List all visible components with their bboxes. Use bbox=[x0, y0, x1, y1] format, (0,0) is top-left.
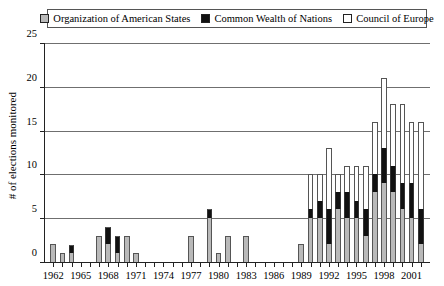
bar-segment-cwn-1968 bbox=[105, 227, 111, 245]
bar-segment-oas-1993 bbox=[335, 209, 341, 262]
bar-1964 bbox=[69, 244, 75, 262]
x-tick-2002 bbox=[421, 262, 422, 267]
x-tick-1969 bbox=[118, 262, 119, 267]
y-tick-label-0: 0 bbox=[32, 248, 37, 258]
x-tick-1994 bbox=[347, 262, 348, 267]
x-tick-1972 bbox=[145, 262, 146, 267]
bar-segment-coe-1992 bbox=[326, 148, 332, 209]
x-tick-1986 bbox=[274, 262, 275, 267]
bar-segment-cwn-1995 bbox=[354, 201, 360, 219]
bar-segment-oas-2000 bbox=[400, 209, 406, 262]
bar-segment-oas-1995 bbox=[354, 218, 360, 262]
x-tick-1975 bbox=[173, 262, 174, 267]
x-tick-1987 bbox=[283, 262, 284, 267]
x-tick-2001 bbox=[412, 262, 413, 267]
legend-item-coe: Council of Europe bbox=[343, 13, 434, 24]
y-tick-25 bbox=[40, 43, 45, 44]
bar-segment-coe-1993 bbox=[335, 174, 341, 192]
bar-segment-oas-2001 bbox=[409, 218, 415, 262]
bar-segment-coe-1994 bbox=[344, 166, 350, 192]
x-tick-1973 bbox=[154, 262, 155, 267]
y-axis-title: # of elections monitored bbox=[6, 92, 18, 199]
bar-1994 bbox=[344, 166, 350, 262]
bar-segment-cwn-1998 bbox=[381, 148, 387, 183]
x-tick-label-1971: 1971 bbox=[125, 270, 146, 281]
gridline-25 bbox=[44, 43, 430, 44]
x-tick-1966 bbox=[90, 262, 91, 267]
bar-segment-cwn-1997 bbox=[372, 174, 378, 192]
x-tick-2000 bbox=[402, 262, 403, 267]
legend-label-coe: Council of Europe bbox=[356, 13, 434, 24]
x-tick-1984 bbox=[255, 262, 256, 267]
bar-1977 bbox=[188, 236, 194, 262]
y-tick-0 bbox=[40, 262, 45, 263]
chart-container: Organization of American States Common W… bbox=[0, 0, 444, 286]
bar-segment-coe-1996 bbox=[363, 166, 369, 210]
bar-segment-coe-1995 bbox=[354, 166, 360, 201]
bar-segment-cwn-1969 bbox=[115, 236, 121, 254]
x-tick-1964 bbox=[72, 262, 73, 267]
bar-segment-cwn-1996 bbox=[363, 209, 369, 235]
x-tick-1989 bbox=[301, 262, 302, 267]
plot-area: 0510152025 19621965196819711974197719801… bbox=[44, 43, 430, 263]
x-tick-label-1992: 1992 bbox=[318, 270, 339, 281]
bar-segment-oas-1997 bbox=[372, 192, 378, 262]
x-tick-1978 bbox=[200, 262, 201, 267]
bar-segment-oas-1969 bbox=[115, 253, 121, 262]
x-tick-label-1965: 1965 bbox=[70, 270, 91, 281]
bar-segment-coe-1998 bbox=[381, 78, 387, 148]
y-tick-label-5: 5 bbox=[32, 204, 37, 214]
bar-segment-oas-1977 bbox=[188, 236, 194, 262]
bar-segment-coe-1991 bbox=[317, 174, 323, 200]
bar-segment-coe-2001 bbox=[409, 122, 415, 183]
y-axis-line bbox=[44, 43, 45, 263]
bar-1989 bbox=[298, 244, 304, 262]
bar-segment-oas-1983 bbox=[243, 236, 249, 262]
x-tick-1995 bbox=[356, 262, 357, 267]
x-tick-1971 bbox=[136, 262, 137, 267]
bar-segment-oas-1994 bbox=[344, 218, 350, 262]
bar-segment-cwn-1964 bbox=[69, 245, 75, 254]
x-tick-1999 bbox=[393, 262, 394, 267]
x-tick-1998 bbox=[384, 262, 385, 267]
bar-1967 bbox=[96, 236, 102, 262]
x-tick-1988 bbox=[292, 262, 293, 267]
bar-1971 bbox=[133, 253, 139, 262]
x-tick-label-1962: 1962 bbox=[43, 270, 64, 281]
x-tick-1983 bbox=[246, 262, 247, 267]
bar-segment-oas-1996 bbox=[363, 236, 369, 262]
bar-segment-cwn-1979 bbox=[207, 209, 213, 218]
x-tick-1962 bbox=[53, 262, 54, 267]
x-tick-label-1977: 1977 bbox=[181, 270, 202, 281]
bar-segment-coe-1997 bbox=[372, 122, 378, 175]
bar-1963 bbox=[60, 253, 66, 262]
plot-frame: 0510152025 19621965196819711974197719801… bbox=[44, 43, 430, 263]
legend-swatch-cwn bbox=[201, 14, 210, 23]
x-tick-1977 bbox=[191, 262, 192, 267]
legend-swatch-coe bbox=[343, 14, 352, 23]
bar-1997 bbox=[372, 122, 378, 262]
y-tick-label-25: 25 bbox=[27, 29, 38, 39]
bar-2001 bbox=[409, 122, 415, 262]
y-tick-10 bbox=[40, 174, 45, 175]
bar-segment-oas-1998 bbox=[381, 183, 387, 262]
bar-segment-oas-1968 bbox=[105, 244, 111, 262]
x-tick-label-1980: 1980 bbox=[208, 270, 229, 281]
x-tick-1974 bbox=[163, 262, 164, 267]
x-tick-1997 bbox=[375, 262, 376, 267]
x-tick-1970 bbox=[127, 262, 128, 267]
bar-segment-oas-1971 bbox=[133, 253, 139, 262]
bar-segment-cwn-1999 bbox=[390, 166, 396, 192]
legend-swatch-oas bbox=[40, 14, 49, 23]
x-tick-label-1989: 1989 bbox=[291, 270, 312, 281]
y-tick-label-20: 20 bbox=[27, 73, 38, 83]
bar-segment-oas-1970 bbox=[124, 236, 130, 262]
x-tick-1980 bbox=[219, 262, 220, 267]
x-tick-1979 bbox=[209, 262, 210, 267]
x-tick-1968 bbox=[108, 262, 109, 267]
bar-1980 bbox=[216, 253, 222, 262]
bar-segment-oas-1964 bbox=[69, 253, 75, 262]
x-tick-1982 bbox=[237, 262, 238, 267]
bar-1992 bbox=[326, 148, 332, 262]
x-tick-1965 bbox=[81, 262, 82, 267]
